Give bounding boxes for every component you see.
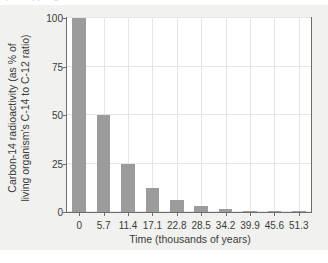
bar	[72, 18, 86, 212]
bar	[170, 200, 184, 212]
y-tick-mark	[63, 115, 67, 116]
x-tick-mark	[226, 212, 227, 216]
x-tick-mark	[299, 212, 300, 216]
y-tick-label: 50	[41, 110, 63, 121]
x-tick-mark	[177, 212, 178, 216]
x-tick-mark	[201, 212, 202, 216]
x-tick-mark	[79, 212, 80, 216]
y-tick-mark	[63, 18, 67, 19]
y-tick-label: 100	[41, 13, 63, 24]
y-tick-label: 0	[41, 207, 63, 218]
plot-area: 0255075100 05.711.417.122.828.534.239.94…	[66, 17, 312, 213]
x-tick-mark	[250, 212, 251, 216]
y-tick-mark	[63, 212, 67, 213]
plot-inner	[67, 18, 311, 212]
x-tick-mark	[274, 212, 275, 216]
y-tick-mark	[63, 164, 67, 165]
y-tick-label: 25	[41, 158, 63, 169]
bar	[121, 164, 135, 213]
x-tick-mark	[128, 212, 129, 216]
x-axis-title: Time (thousands of years)	[66, 233, 314, 245]
y-tick-label: 75	[41, 61, 63, 72]
y-axis-title-text: Carbon-14 radioactivity (as % of living …	[6, 34, 32, 201]
bar-series	[67, 18, 311, 212]
x-tick-mark	[152, 212, 153, 216]
y-tick-mark	[63, 67, 67, 68]
x-tick-mark	[104, 212, 105, 216]
page-sliver-text: p t t e pp e g	[6, 0, 59, 1]
chart-figure: Carbon-14 radioactivity (as % of living …	[0, 5, 328, 250]
y-axis-title: Carbon-14 radioactivity (as % of living …	[2, 15, 36, 221]
x-tick-label: 51.3	[279, 220, 319, 231]
bar	[146, 188, 160, 212]
bar	[97, 115, 111, 212]
